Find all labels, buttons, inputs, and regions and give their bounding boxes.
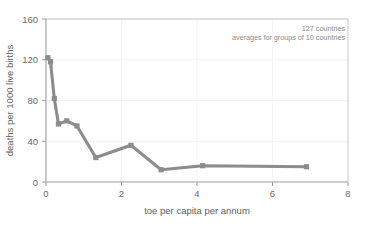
y-tick-label-0: 0 — [33, 177, 38, 188]
x-tick-label-8: 8 — [345, 188, 350, 199]
y-tick-label-120: 120 — [22, 54, 38, 65]
annotation-line-2: averages for groups of 10 countries — [232, 33, 345, 42]
x-axis-title: toe per capita per annum — [144, 205, 250, 216]
data-point-marker — [200, 163, 205, 168]
chart-figure: 160 120 80 40 0 0 2 4 6 8 toe per capita… — [0, 0, 365, 226]
y-tick-label-40: 40 — [27, 136, 38, 147]
data-point-marker — [64, 118, 69, 123]
data-point-marker — [93, 155, 98, 160]
data-point-marker — [128, 143, 133, 148]
data-point-marker — [74, 123, 79, 128]
data-point-marker — [304, 164, 309, 169]
annotation-line-1: 127 countries — [302, 24, 346, 33]
y-axis-title: deaths per 1000 live births — [4, 45, 15, 157]
x-tick-label-2: 2 — [119, 188, 124, 199]
x-axis-ticks — [46, 182, 348, 186]
x-tick-label-6: 6 — [270, 188, 275, 199]
data-point-marker — [48, 59, 53, 64]
data-point-marker — [159, 167, 164, 172]
y-tick-label-80: 80 — [27, 95, 38, 106]
y-axis-ticks — [42, 19, 46, 182]
line-chart: 160 120 80 40 0 0 2 4 6 8 toe per capita… — [0, 0, 365, 226]
data-point-marker — [56, 121, 61, 126]
x-tick-label-0: 0 — [43, 188, 48, 199]
y-tick-label-160: 160 — [22, 14, 38, 25]
x-tick-label-4: 4 — [194, 188, 199, 199]
data-point-marker — [52, 96, 57, 101]
